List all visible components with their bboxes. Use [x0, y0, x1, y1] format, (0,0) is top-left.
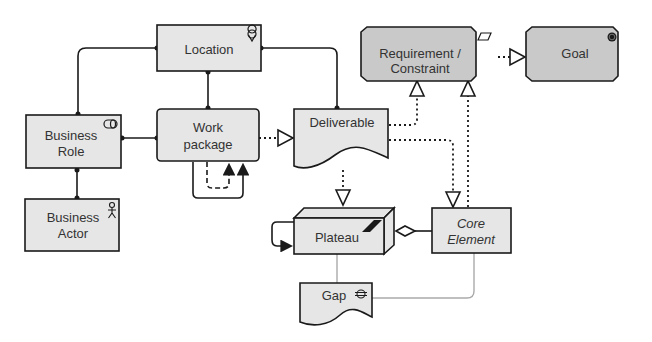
node-goal[interactable]: Goal: [526, 27, 618, 81]
business-actor-label-line1: Business: [47, 210, 100, 225]
node-requirement-constraint[interactable]: Requirement / Constraint: [68, 0, 491, 81]
core-element-label-line2: Element: [447, 232, 496, 247]
flow-self-loop[interactable]: [207, 162, 229, 188]
node-business-actor[interactable]: Business Actor: [25, 199, 119, 251]
connections: [75, 46, 526, 299]
core-element-label-line1: Core: [457, 216, 485, 231]
node-work-package[interactable]: Work package: [157, 109, 259, 161]
association-gap-core[interactable]: [372, 252, 474, 298]
gap-label: Gap: [322, 288, 347, 303]
deliverable-label: Deliverable: [309, 115, 374, 130]
business-actor-label-line2: Actor: [58, 226, 89, 241]
association-location-business-role[interactable]: [78, 48, 157, 114]
node-location[interactable]: Location: [157, 25, 261, 71]
realization-arrowhead: [446, 192, 460, 207]
requirement-label-line1: Requirement /: [379, 46, 461, 61]
business-role-label-line2: Role: [58, 144, 85, 159]
work-package-label-line2: package: [183, 137, 232, 152]
realization-deliverable-requirement[interactable]: [389, 96, 417, 125]
realization-arrowhead: [461, 81, 475, 96]
location-label: Location: [184, 42, 233, 57]
target-icon: [608, 33, 617, 42]
triggering-plateau-self-loop[interactable]: [272, 222, 294, 246]
node-plateau[interactable]: Plateau: [294, 208, 394, 254]
business-role-label-line1: Business: [45, 128, 98, 143]
archimate-diagram: Location Business Role Work package Deli…: [0, 0, 652, 342]
node-business-role[interactable]: Business Role: [26, 115, 121, 168]
parallelogram-icon: [478, 33, 491, 40]
realization-arrowhead: [278, 130, 293, 146]
plateau-label: Plateau: [315, 230, 359, 245]
node-deliverable[interactable]: Deliverable: [294, 109, 388, 168]
plateau-top-face: [294, 208, 394, 218]
requirement-label-line2: Constraint: [390, 61, 450, 76]
work-package-box[interactable]: [157, 109, 259, 161]
work-package-label-line1: Work: [193, 120, 224, 135]
business-actor-box[interactable]: [25, 199, 119, 251]
node-core-element[interactable]: Core Element: [432, 208, 511, 253]
node-gap[interactable]: Gap: [300, 283, 372, 325]
triggering-self-loop[interactable]: [193, 162, 243, 198]
goal-label: Goal: [561, 46, 589, 61]
realization-arrowhead: [410, 81, 424, 96]
realization-arrowhead: [510, 49, 525, 65]
realization-arrowhead: [336, 190, 350, 205]
aggregation-diamond: [396, 226, 415, 236]
association-location-deliverable[interactable]: [261, 48, 337, 108]
realization-deliverable-core[interactable]: [389, 140, 453, 192]
